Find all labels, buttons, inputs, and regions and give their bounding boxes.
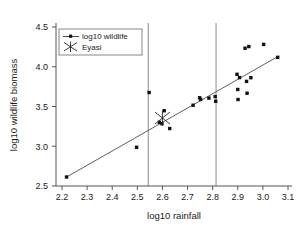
data-point — [213, 95, 216, 98]
x-tick-label: 2.9 — [232, 192, 245, 202]
data-point — [191, 104, 194, 107]
data-point — [135, 146, 138, 149]
data-point — [207, 96, 210, 99]
x-tick-label: 2.3 — [81, 192, 94, 202]
data-point — [245, 80, 248, 83]
data-point — [243, 47, 246, 50]
data-point — [238, 76, 241, 79]
data-point — [262, 43, 265, 46]
data-point — [245, 92, 248, 95]
x-tick-label: 2.4 — [106, 192, 119, 202]
data-point — [65, 175, 68, 178]
x-tick-label: 2.2 — [56, 192, 69, 202]
data-point — [168, 127, 171, 130]
data-point — [147, 91, 150, 94]
y-tick-label: 4.5 — [35, 22, 48, 32]
data-point — [163, 109, 166, 112]
scatter-plot: 2.22.32.42.52.62.72.82.93.03.1 2.53.03.5… — [0, 0, 302, 237]
chart-legend[interactable]: log10 wildlife Eyasi — [59, 29, 142, 55]
x-axis-title: log10 rainfall — [147, 210, 201, 221]
data-point — [235, 73, 238, 76]
y-axis-title: log10 wildlife biomass — [8, 59, 19, 152]
x-tick-label: 3.1 — [282, 192, 295, 202]
chart-figure: 2.22.32.42.52.62.72.82.93.03.1 2.53.03.5… — [0, 0, 302, 237]
x-tick-label: 2.8 — [206, 192, 219, 202]
y-tick-label: 3.5 — [35, 102, 48, 112]
data-point — [214, 100, 217, 103]
data-point — [249, 76, 252, 79]
data-point — [247, 45, 250, 48]
data-point — [236, 98, 239, 101]
y-tick-label: 3.0 — [35, 142, 48, 152]
y-tick-label: 4.0 — [35, 62, 48, 72]
data-point — [236, 88, 239, 91]
y-tick-label: 2.5 — [35, 181, 48, 191]
x-tick-label: 2.7 — [181, 192, 194, 202]
data-point — [276, 56, 279, 59]
data-point — [199, 98, 202, 101]
x-tick-label: 3.0 — [257, 192, 270, 202]
legend-label-eyasi: Eyasi — [82, 43, 102, 52]
legend-marker-dot-wildlife — [69, 35, 72, 38]
data-point — [160, 122, 163, 125]
x-tick-label: 2.5 — [131, 192, 144, 202]
legend-label-wildlife: log10 wildlife — [82, 32, 128, 41]
x-tick-label: 2.6 — [156, 192, 169, 202]
